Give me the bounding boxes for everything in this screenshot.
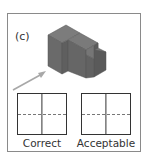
caption-acceptable: Acceptable xyxy=(76,137,136,149)
viewing-direction-arrow xyxy=(13,71,46,90)
hidden-line xyxy=(82,114,130,115)
view-correct xyxy=(17,93,67,135)
caption-correct: Correct xyxy=(12,137,72,149)
view-acceptable xyxy=(81,93,131,135)
hidden-line xyxy=(18,114,66,115)
isometric-stepped-block xyxy=(48,25,106,78)
